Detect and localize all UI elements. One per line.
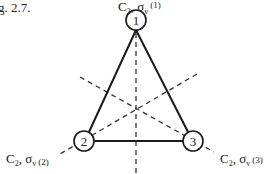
node-2: 2 [74, 131, 94, 151]
node-2-label: 2 [81, 134, 88, 149]
symmetry-diagram: g. 2.7. 1 2 3 C2, σv(1) C2, σv(2) C2, σv… [0, 0, 272, 174]
node-1-label: 1 [133, 13, 140, 28]
edge-1-3 [136, 30, 188, 132]
edge-1-2 [89, 30, 136, 132]
node-3: 3 [183, 131, 203, 151]
figure-caption: g. 2.7. [0, 0, 31, 15]
node-3-label: 3 [190, 134, 197, 149]
axis-1-label: C2, σv(1) [118, 0, 161, 16]
axis-2-label: C2, σv(2) [6, 151, 49, 168]
axis-3-label: C2, σv(3) [220, 151, 263, 168]
